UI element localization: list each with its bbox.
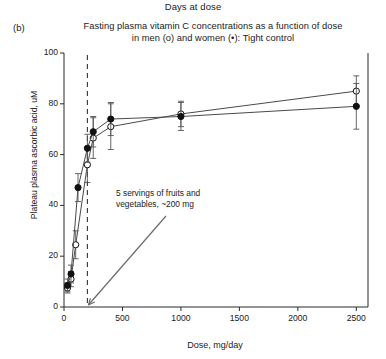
- x-tick-label: 0: [44, 313, 84, 323]
- data-series: [64, 76, 359, 293]
- plot-frame: [64, 53, 368, 307]
- annotation-line2: vegetables, ~200 mg: [116, 199, 246, 210]
- y-tick-label: 100: [32, 47, 58, 57]
- y-tick-label: 20: [32, 250, 58, 260]
- annotation-arrow: [88, 216, 166, 305]
- y-tick-label: 60: [32, 149, 58, 159]
- axis-ticks: [60, 53, 356, 311]
- annotation-line1: 5 servings of fruits and: [116, 188, 246, 199]
- x-axis-label: Dose, mg/day: [60, 340, 370, 350]
- annotation-text: 5 servings of fruits and vegetables, ~20…: [116, 188, 246, 211]
- x-tick-label: 500: [102, 313, 142, 323]
- x-tick-label: 1000: [161, 313, 201, 323]
- figure-panel-b: Days at dose (b) Fasting plasma vitamin …: [0, 0, 386, 359]
- y-tick-label: 40: [32, 199, 58, 209]
- x-tick-label: 2500: [336, 313, 376, 323]
- x-tick-label: 2000: [278, 313, 318, 323]
- y-tick-label: 0: [32, 301, 58, 311]
- y-tick-label: 80: [32, 98, 58, 108]
- x-tick-label: 1500: [219, 313, 259, 323]
